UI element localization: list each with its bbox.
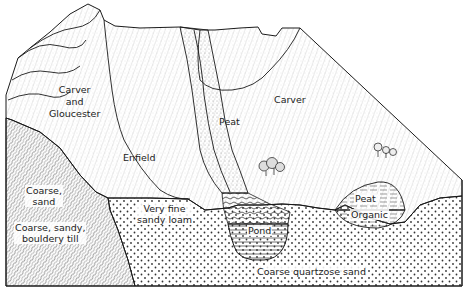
diagram-canvas (0, 0, 465, 290)
label-coarse-sand: Coarse, sand (25, 185, 63, 207)
soil-landscape-block-diagram: Carver and Gloucester Enfield Peat Carve… (0, 0, 465, 290)
label-coarse-sandy-bouldery-till: Coarse, sandy, bouldery till (14, 222, 86, 244)
label-peat-bog: Peat (354, 193, 377, 204)
label-line: sandy loam (137, 214, 192, 225)
label-very-fine-sandy-loam: Very fine sandy loam (136, 203, 193, 225)
label-enfield: Enfield (122, 152, 157, 163)
label-line: sand (26, 196, 62, 207)
label-carver: Carver (273, 94, 307, 105)
label-line: Carver (49, 84, 100, 96)
label-line: Coarse, sandy, (15, 222, 85, 233)
label-line: Coarse, (26, 185, 62, 196)
label-coarse-quartzose-sand: Coarse quartzose sand (256, 266, 367, 277)
label-line: and (49, 96, 100, 108)
label-line: bouldery till (15, 233, 85, 244)
label-peat-channel: Peat (218, 116, 241, 127)
label-line: Gloucester (49, 108, 100, 120)
label-line: Very fine (137, 203, 192, 214)
label-organic: Organic (350, 209, 389, 220)
label-pond: Pond (247, 225, 272, 236)
label-carver-and-gloucester: Carver and Gloucester (48, 84, 101, 120)
